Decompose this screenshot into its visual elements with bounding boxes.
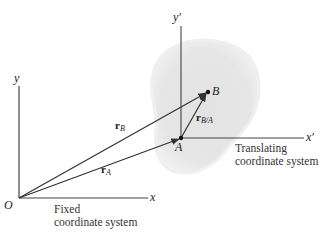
fixed-x-axis-label: x (150, 191, 155, 203)
vector-rBA-subscript: B/A (201, 116, 213, 125)
vector-rA-label: rA (101, 164, 111, 177)
vector-rBA-label: rB/A (196, 112, 213, 125)
vector-rB-label: rB (115, 120, 125, 133)
point-A-label: A (175, 141, 182, 153)
point-B (206, 90, 210, 94)
vector-rB-subscript: B (120, 124, 125, 133)
point-B-label: B (212, 85, 219, 97)
fixed-y-axis-label: y (14, 72, 19, 84)
fixed-frame-caption: Fixed coordinate system (54, 203, 137, 229)
translating-caption-line1: Translating (235, 142, 318, 155)
translating-caption-line2: coordinate system (235, 155, 318, 168)
fixed-caption-line2: coordinate system (54, 216, 137, 229)
translating-frame-caption: Translating coordinate system (235, 142, 318, 168)
vector-rA-subscript: A (106, 168, 111, 177)
vector-rA (19, 139, 179, 198)
diagram-graphics (0, 0, 328, 234)
origin-label: O (4, 199, 13, 211)
relative-motion-diagram: y x O y′ x′ B A rB rA rB/A Fixed coordin… (0, 0, 328, 234)
translating-y-axis-label: y′ (173, 11, 181, 23)
fixed-caption-line1: Fixed (54, 203, 137, 216)
